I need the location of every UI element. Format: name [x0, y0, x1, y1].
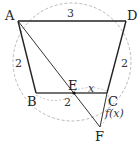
measure-ec: x [88, 82, 95, 95]
label-f: F [95, 129, 104, 144]
measure-be: 2 [64, 96, 71, 109]
measure-dc: 2 [121, 57, 128, 70]
measure-ab: 2 [15, 57, 22, 70]
segment-af [18, 21, 100, 127]
label-d: D [127, 8, 137, 23]
measure-ad: 3 [67, 7, 74, 20]
diagram-stage: A D B C E F 3 2 2 2 x f(x) [0, 0, 140, 146]
geometry-figure: A D B C E F 3 2 2 2 x f(x) [0, 0, 140, 146]
label-e: E [68, 78, 78, 93]
measure-cf: f(x) [104, 107, 124, 120]
label-a: A [4, 8, 15, 23]
label-b: B [27, 94, 37, 109]
